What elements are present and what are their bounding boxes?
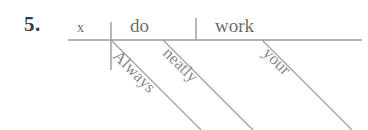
verb-word: do xyxy=(130,16,149,35)
sentence-diagram: 5. x do work Always neatly your xyxy=(0,0,368,130)
exercise-number: 5. xyxy=(24,14,41,35)
direct-object-word: work xyxy=(215,16,254,35)
subject-word: x xyxy=(77,21,84,35)
